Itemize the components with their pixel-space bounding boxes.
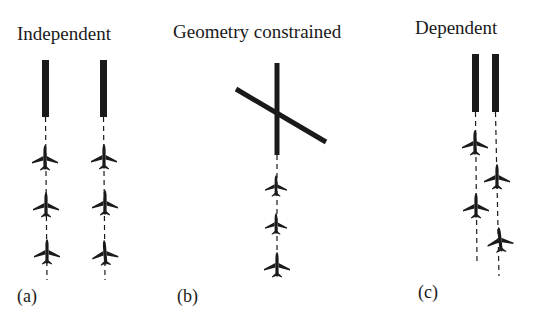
- airplane-icon: [486, 226, 515, 254]
- airplane-icon: [484, 164, 510, 190]
- airplane-icon: [265, 175, 287, 197]
- airplane-icon: [92, 190, 118, 216]
- runway-right: [492, 54, 499, 112]
- airplane-icon: [32, 145, 58, 171]
- airplane-icon: [265, 213, 287, 235]
- runway-left: [42, 60, 49, 117]
- runway-right: [100, 60, 107, 117]
- runway-diagram: [0, 0, 553, 329]
- airplane-icon: [91, 239, 119, 266]
- airplane-icon: [463, 193, 489, 219]
- panel-a: [32, 60, 119, 280]
- runway-diagonal: [236, 89, 326, 142]
- runway-left: [472, 54, 479, 112]
- airplane-icon: [33, 192, 59, 218]
- panel-c: [462, 54, 514, 276]
- airplane-icon: [264, 252, 290, 278]
- airplane-icon: [34, 239, 60, 265]
- panel-b: [236, 63, 326, 278]
- airplane-icon: [462, 130, 488, 156]
- airplane-icon: [91, 144, 117, 170]
